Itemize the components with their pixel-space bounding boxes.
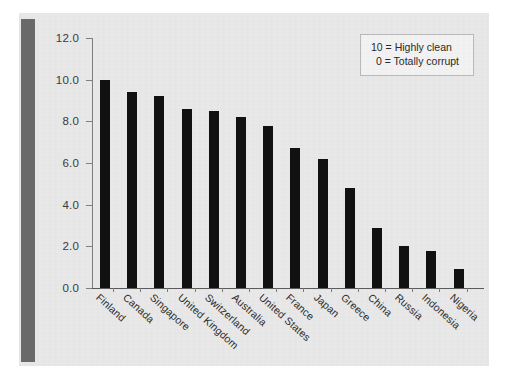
bar <box>426 251 436 289</box>
bar <box>399 246 409 288</box>
bar <box>209 111 219 288</box>
bar <box>290 148 300 288</box>
y-axis-tick-label: 12.0 <box>56 32 79 44</box>
bar <box>127 92 137 288</box>
bar <box>372 228 382 288</box>
y-axis-tick-label: 8.0 <box>62 115 79 127</box>
page-root: 12.010.08.06.04.02.00.0 FinlandCanadaSin… <box>0 0 506 382</box>
chart-panel: 12.010.08.06.04.02.00.0 FinlandCanadaSin… <box>19 13 489 366</box>
x-axis-line <box>92 288 484 289</box>
bar <box>263 126 273 289</box>
y-axis-tick-label: 10.0 <box>56 74 79 86</box>
bar <box>182 109 192 288</box>
bar <box>236 117 246 288</box>
bar <box>318 159 328 288</box>
y-axis-tick-label: 4.0 <box>62 199 79 211</box>
legend-box: 10 = Highly clean 0 = Totally corrupt <box>360 34 474 76</box>
y-axis-tick-label: 6.0 <box>62 157 79 169</box>
legend-line-highly-clean: 10 = Highly clean <box>371 41 465 55</box>
bar <box>454 269 464 288</box>
bar <box>345 188 355 288</box>
x-axis-label: Japan <box>312 291 342 320</box>
y-axis-tick: 0.0 <box>86 288 92 289</box>
x-axis-labels: FinlandCanadaSingaporeUnited KingdomSwit… <box>92 291 492 371</box>
bar <box>154 96 164 288</box>
y-axis-tick-label: 2.0 <box>62 240 79 252</box>
page-spine-bar <box>21 19 35 362</box>
y-axis-tick-label: 0.0 <box>62 282 79 294</box>
legend-line-totally-corrupt: 0 = Totally corrupt <box>371 55 465 69</box>
x-axis-label: Russia <box>393 291 426 322</box>
bar <box>100 80 110 288</box>
